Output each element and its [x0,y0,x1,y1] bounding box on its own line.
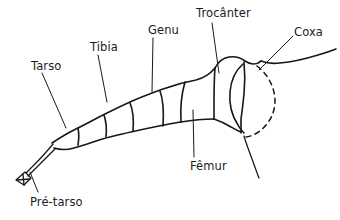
leader-tarso [42,73,66,128]
trochanter-outline [241,62,245,133]
insect-leg-diagram: Tarso Pré-tarso Tibia Genu Trocânter Cox… [0,0,340,220]
coxa-hidden-arc [244,66,275,137]
leader-lines [30,23,293,192]
label-femur: Fêmur [190,160,227,173]
leader-genu [152,38,153,92]
leg-ventral-outline [54,119,241,150]
trochanter-coxa-dorsal [215,49,336,68]
leader-coxa [259,36,293,70]
coxa-distal-process [244,136,259,178]
coxa-outline [230,64,275,137]
label-tibia: Tibia [90,41,118,54]
leader-pretarso [30,172,38,192]
label-coxa: Coxa [294,26,323,39]
label-trocanter: Trocânter [196,7,251,20]
leader-tibia [98,55,107,102]
label-pretarso: Pré-tarso [30,196,83,209]
pretarsus [16,144,55,185]
label-tarso: Tarso [31,60,61,73]
label-genu: Genu [148,24,179,37]
leader-femur [193,110,194,157]
